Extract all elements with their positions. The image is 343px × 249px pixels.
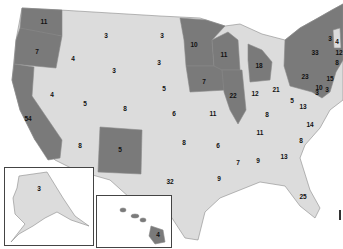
vote-label-west-virginia: 5: [290, 98, 294, 105]
vote-label-ohio: 21: [272, 87, 279, 94]
vote-label-wyoming: 3: [112, 68, 116, 75]
vote-label-kansas: 6: [172, 111, 176, 118]
vote-label-north-carolina: 14: [306, 122, 313, 129]
vote-label-alabama: 9: [256, 158, 260, 165]
vote-label-nebraska: 5: [162, 86, 166, 93]
vote-label-delaware: 3: [325, 87, 329, 94]
vote-label-washington: 11: [41, 19, 48, 26]
vote-label-pennsylvania: 23: [301, 74, 308, 81]
vote-label-minnesota: 10: [190, 42, 197, 49]
vote-label-virginia: 13: [299, 104, 306, 111]
hawaii-shape: [97, 196, 171, 247]
alaska-shape: [5, 168, 93, 245]
vote-label-tennessee: 11: [257, 130, 264, 137]
vote-label-montana: 3: [104, 33, 108, 40]
vote-label-massachusetts: 12: [335, 50, 342, 57]
edge-mark: [339, 210, 341, 220]
alaska-inset: [4, 167, 94, 246]
vote-label-iowa: 7: [202, 79, 206, 86]
vote-label-texas: 32: [166, 179, 173, 186]
vote-label-michigan: 18: [255, 63, 262, 70]
vote-label-arizona: 8: [78, 143, 82, 150]
vote-label-colorado: 8: [123, 106, 127, 113]
vote-label-illinois: 22: [229, 93, 236, 100]
vote-label-nevada: 4: [50, 92, 54, 99]
hawaii-inset: [96, 195, 172, 248]
vote-label-south-dakota: 3: [157, 60, 161, 67]
vote-label-idaho: 4: [71, 56, 75, 63]
vote-label-new-jersey: 15: [326, 76, 333, 83]
vote-label-hawaii: 4: [156, 232, 160, 239]
vote-label-new-hampshire: 4: [335, 39, 339, 46]
vote-label-florida: 25: [299, 194, 306, 201]
vote-label-dc: 3: [315, 90, 319, 97]
vote-label-alaska: 3: [37, 186, 41, 193]
vote-label-vermont: 3: [328, 36, 332, 43]
vote-label-california: 54: [24, 116, 31, 123]
vote-label-kentucky: 8: [265, 112, 269, 119]
vote-label-north-dakota: 3: [160, 33, 164, 40]
vote-label-oregon: 7: [35, 49, 39, 56]
vote-label-oklahoma: 8: [182, 140, 186, 147]
vote-label-georgia: 13: [280, 154, 287, 161]
vote-label-wisconsin: 11: [221, 52, 228, 59]
vote-label-missouri: 11: [210, 111, 217, 118]
vote-label-mississippi: 7: [236, 160, 240, 167]
vote-label-south-carolina: 8: [299, 138, 303, 145]
vote-label-indiana: 12: [251, 91, 258, 98]
vote-label-connecticut: 8: [335, 60, 339, 67]
vote-label-new-york: 33: [311, 50, 318, 57]
vote-label-utah: 5: [83, 101, 87, 108]
vote-label-louisiana: 9: [217, 176, 221, 183]
vote-label-new-mexico: 5: [118, 147, 122, 154]
vote-label-arkansas: 6: [216, 143, 220, 150]
